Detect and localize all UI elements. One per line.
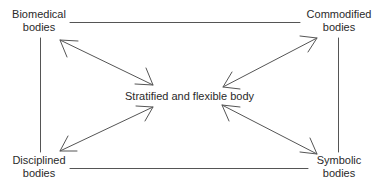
node-label-line2: bodies <box>6 21 72 34</box>
node-disciplined-bodies: Disciplined bodies <box>6 154 72 180</box>
arrow-center-biomedical <box>60 40 153 85</box>
node-label-line1: Commodified <box>302 8 376 21</box>
arrow-center-disciplined <box>60 106 153 151</box>
diagram-canvas: Biomedical bodies Commodified bodies Dis… <box>0 0 378 187</box>
arrow-center-commodified <box>223 36 317 89</box>
arrow-center-symbolic <box>222 105 317 154</box>
node-label-line1: Biomedical <box>6 8 72 21</box>
node-symbolic-bodies: Symbolic bodies <box>306 154 372 180</box>
node-commodified-bodies: Commodified bodies <box>302 8 376 34</box>
node-stratified-flexible-body: Stratified and flexible body <box>125 90 254 103</box>
node-label-line1: Disciplined <box>6 154 72 167</box>
node-label-line2: bodies <box>302 21 376 34</box>
node-label-line1: Symbolic <box>306 154 372 167</box>
node-label-line2: bodies <box>306 167 372 180</box>
node-biomedical-bodies: Biomedical bodies <box>6 8 72 34</box>
node-label-line2: bodies <box>6 167 72 180</box>
